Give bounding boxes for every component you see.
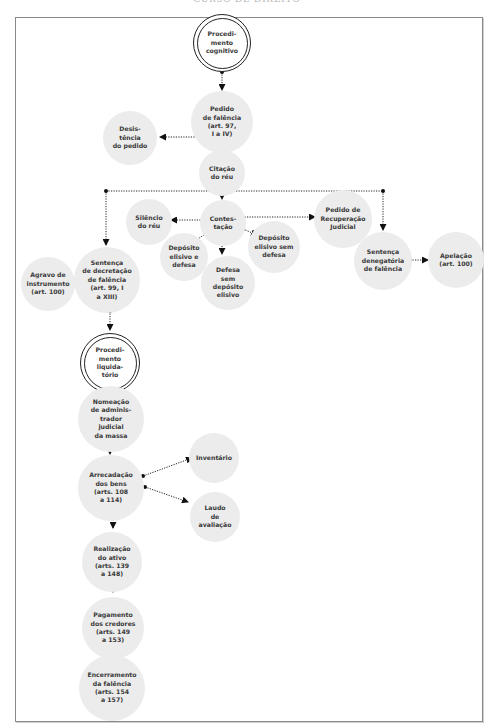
node-label: Nomeação de adminis- trador judicial da …: [91, 398, 132, 440]
node-defesa-sem-deposito: Defesa sem depósito elisivo: [201, 256, 255, 310]
node-label: Apelação (art. 100): [439, 252, 472, 269]
node-arrecadacao: Arrecadação dos bens (arts. 108 a 114): [78, 455, 144, 521]
node-label: Realização do ativo (arts. 139 a 148): [93, 545, 130, 579]
node-label: Encerramento da falência (arts. 154 a 15…: [87, 671, 136, 705]
node-label: Arrecadação dos bens (arts. 108 a 114): [89, 471, 133, 505]
node-procedimento-cognitivo: Procedi- mento cognitivo: [193, 14, 251, 72]
node-label: Citação do réu: [209, 165, 235, 182]
node-laudo: Laudo de avaliação: [190, 492, 240, 542]
node-contestacao: Contes- tação: [200, 200, 246, 246]
node-label: Procedi- mento liquida- tório: [96, 346, 125, 380]
node-label: Agravo de instrumento (art. 100): [27, 271, 70, 296]
node-label: Laudo de avaliação: [199, 504, 232, 529]
node-label: Silêncio do réu: [135, 214, 162, 231]
node-inventario: Inventário: [189, 433, 239, 483]
node-label: Contes- tação: [210, 215, 237, 232]
node-label: Pedido de falência (art. 97, I a IV): [203, 105, 241, 139]
node-nomeacao: Nomeação de adminis- trador judicial da …: [78, 386, 144, 452]
node-label: Inventário: [196, 454, 232, 462]
node-label: Depósito elisivo e defesa: [168, 244, 199, 269]
node-deposito-defesa: Depósito elisivo e defesa: [160, 233, 208, 281]
node-encerramento: Encerramento da falência (arts. 154 a 15…: [79, 655, 145, 721]
node-label: Procedi- mento cognitivo: [206, 30, 238, 55]
node-realizacao: Realização do ativo (arts. 139 a 148): [82, 532, 142, 592]
node-sentenca-denegatoria: Sentença denegatória de falência: [354, 232, 412, 290]
node-apelacao: Apelação (art. 100): [428, 232, 484, 288]
node-agravo: Agravo de instrumento (art. 100): [21, 257, 75, 311]
node-pedido-falencia: Pedido de falência (art. 97, I a IV): [191, 91, 253, 153]
node-label: Desis- tência do pedido: [113, 125, 148, 150]
node-label: Sentença de decretação de falência (art.…: [82, 259, 132, 301]
node-label: Depósito elisivo sem defesa: [254, 234, 293, 259]
node-citacao: Citação do réu: [199, 150, 245, 196]
node-label: Pagamento dos credores (arts. 149 a 153): [90, 611, 135, 645]
node-label: Defesa sem depósito elisivo: [213, 266, 243, 300]
node-pagamento: Pagamento dos credores (arts. 149 a 153): [82, 597, 144, 659]
node-deposito-sem-defesa: Depósito elisivo sem defesa: [248, 221, 300, 273]
node-desistencia: Desis- tência do pedido: [103, 111, 157, 165]
node-silencio: Silêncio do réu: [126, 199, 172, 245]
node-label: Sentença denegatória de falência: [362, 248, 404, 273]
node-label: Pedido de Recuperação Judicial: [321, 206, 366, 231]
node-sentenca-decretacao: Sentença de decretação de falência (art.…: [74, 247, 140, 313]
node-procedimento-liquidatorio: Procedi- mento liquida- tório: [80, 333, 140, 393]
